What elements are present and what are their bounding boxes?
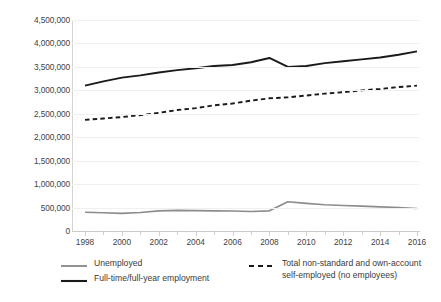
x-axis-tick [122, 231, 123, 236]
y-axis-tick-label: 2,500,000 [0, 109, 70, 119]
gridline [72, 20, 419, 21]
gridline [72, 90, 419, 91]
legend-item-non-standard: Total non-standard and own-account self-… [249, 258, 421, 281]
x-axis-minor-tick [177, 231, 178, 235]
legend-label-unemployed: Unemployed [94, 258, 142, 270]
y-axis-tick-label: 4,000,000 [0, 38, 70, 48]
gridline [72, 137, 419, 138]
y-axis: 0500,0001,000,0001,500,0002,000,0002,500… [0, 0, 70, 302]
chart-legend: Unemployed Full-time/full-year employmen… [0, 258, 441, 298]
x-axis-tick-label: 2004 [186, 237, 204, 247]
x-axis-tick [159, 231, 160, 236]
gridline [72, 208, 419, 209]
legend-label-non-standard: Total non-standard and own-account self-… [282, 258, 421, 281]
y-axis-tick-label: 1,500,000 [0, 156, 70, 166]
legend-swatch-dashed-black-icon [249, 261, 275, 271]
gridline [72, 43, 419, 44]
x-axis-tick [233, 231, 234, 236]
x-axis-tick [269, 231, 270, 236]
y-axis-tick-label: 500,000 [0, 203, 70, 213]
x-axis-tick [380, 231, 381, 236]
x-axis-minor-tick [140, 231, 141, 235]
gridline [72, 67, 419, 68]
x-axis-tick-label: 2016 [408, 237, 426, 247]
x-axis-tick [306, 231, 307, 236]
x-axis-tick-label: 1998 [76, 237, 94, 247]
y-axis-tick-label: 3,500,000 [0, 62, 70, 72]
x-axis-tick-label: 2014 [371, 237, 389, 247]
x-axis-tick-label: 2010 [297, 237, 315, 247]
x-axis-minor-tick [288, 231, 289, 235]
x-axis-minor-tick [325, 231, 326, 235]
y-axis-tick-label: 0 [0, 226, 70, 236]
x-axis-minor-tick [214, 231, 215, 235]
x-axis-tick [196, 231, 197, 236]
x-axis: 1998200020022004200620082010201220142016 [0, 237, 441, 251]
plot-area [72, 20, 419, 231]
x-axis-tick-label: 2012 [334, 237, 352, 247]
line-chart: 0500,0001,000,0001,500,0002,000,0002,500… [0, 0, 441, 302]
gridline [72, 161, 419, 162]
legend-item-unemployed: Unemployed [61, 258, 142, 270]
series-lines [72, 20, 419, 231]
x-axis-minor-tick [362, 231, 363, 235]
x-axis-tick [343, 231, 344, 236]
legend-label-full-time: Full-time/full-year employment [94, 273, 209, 285]
y-axis-tick-label: 3,000,000 [0, 85, 70, 95]
legend-swatch-solid-black-icon [61, 276, 87, 286]
x-axis-minor-tick [399, 231, 400, 235]
x-axis-tick [417, 231, 418, 236]
x-axis-minor-tick [103, 231, 104, 235]
legend-swatch-solid-gray-icon [61, 261, 87, 271]
series-line [85, 51, 417, 85]
x-axis-tick-label: 2002 [150, 237, 168, 247]
gridline [72, 114, 419, 115]
legend-item-full-time: Full-time/full-year employment [61, 273, 209, 285]
x-axis-tick [85, 231, 86, 236]
x-axis-tick-label: 2008 [260, 237, 278, 247]
y-axis-tick-label: 2,000,000 [0, 132, 70, 142]
y-axis-tick-label: 1,000,000 [0, 179, 70, 189]
x-axis-minor-tick [251, 231, 252, 235]
x-axis-tick-label: 2006 [223, 237, 241, 247]
y-axis-tick-label: 4,500,000 [0, 15, 70, 25]
gridline [72, 184, 419, 185]
x-axis-tick-label: 2000 [113, 237, 131, 247]
